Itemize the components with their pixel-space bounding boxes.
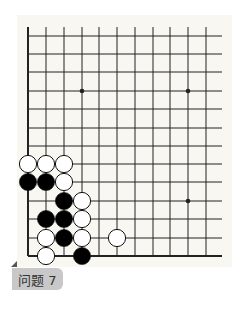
go-board[interactable]: [0, 0, 242, 309]
black-stone[interactable]: [73, 247, 90, 264]
star-point: [80, 89, 85, 94]
white-stone[interactable]: [73, 192, 90, 209]
black-stone[interactable]: [55, 210, 72, 227]
white-stone[interactable]: [37, 229, 54, 246]
star-point: [186, 199, 191, 204]
white-stone[interactable]: [73, 229, 90, 246]
white-stone[interactable]: [19, 155, 36, 172]
black-stone[interactable]: [55, 229, 72, 246]
white-stone[interactable]: [108, 229, 125, 246]
problem-label: 问题 7: [18, 270, 56, 289]
problem-label-tab: 问题 7: [12, 268, 63, 290]
black-stone[interactable]: [37, 173, 54, 190]
white-stone[interactable]: [37, 247, 54, 264]
black-stone[interactable]: [19, 173, 36, 190]
star-point: [186, 89, 191, 94]
white-stone[interactable]: [55, 173, 72, 190]
white-stone[interactable]: [55, 155, 72, 172]
black-stone[interactable]: [37, 210, 54, 227]
label-corner-marker: [11, 261, 17, 267]
white-stone[interactable]: [37, 155, 54, 172]
black-stone[interactable]: [55, 192, 72, 209]
white-stone[interactable]: [73, 210, 90, 227]
